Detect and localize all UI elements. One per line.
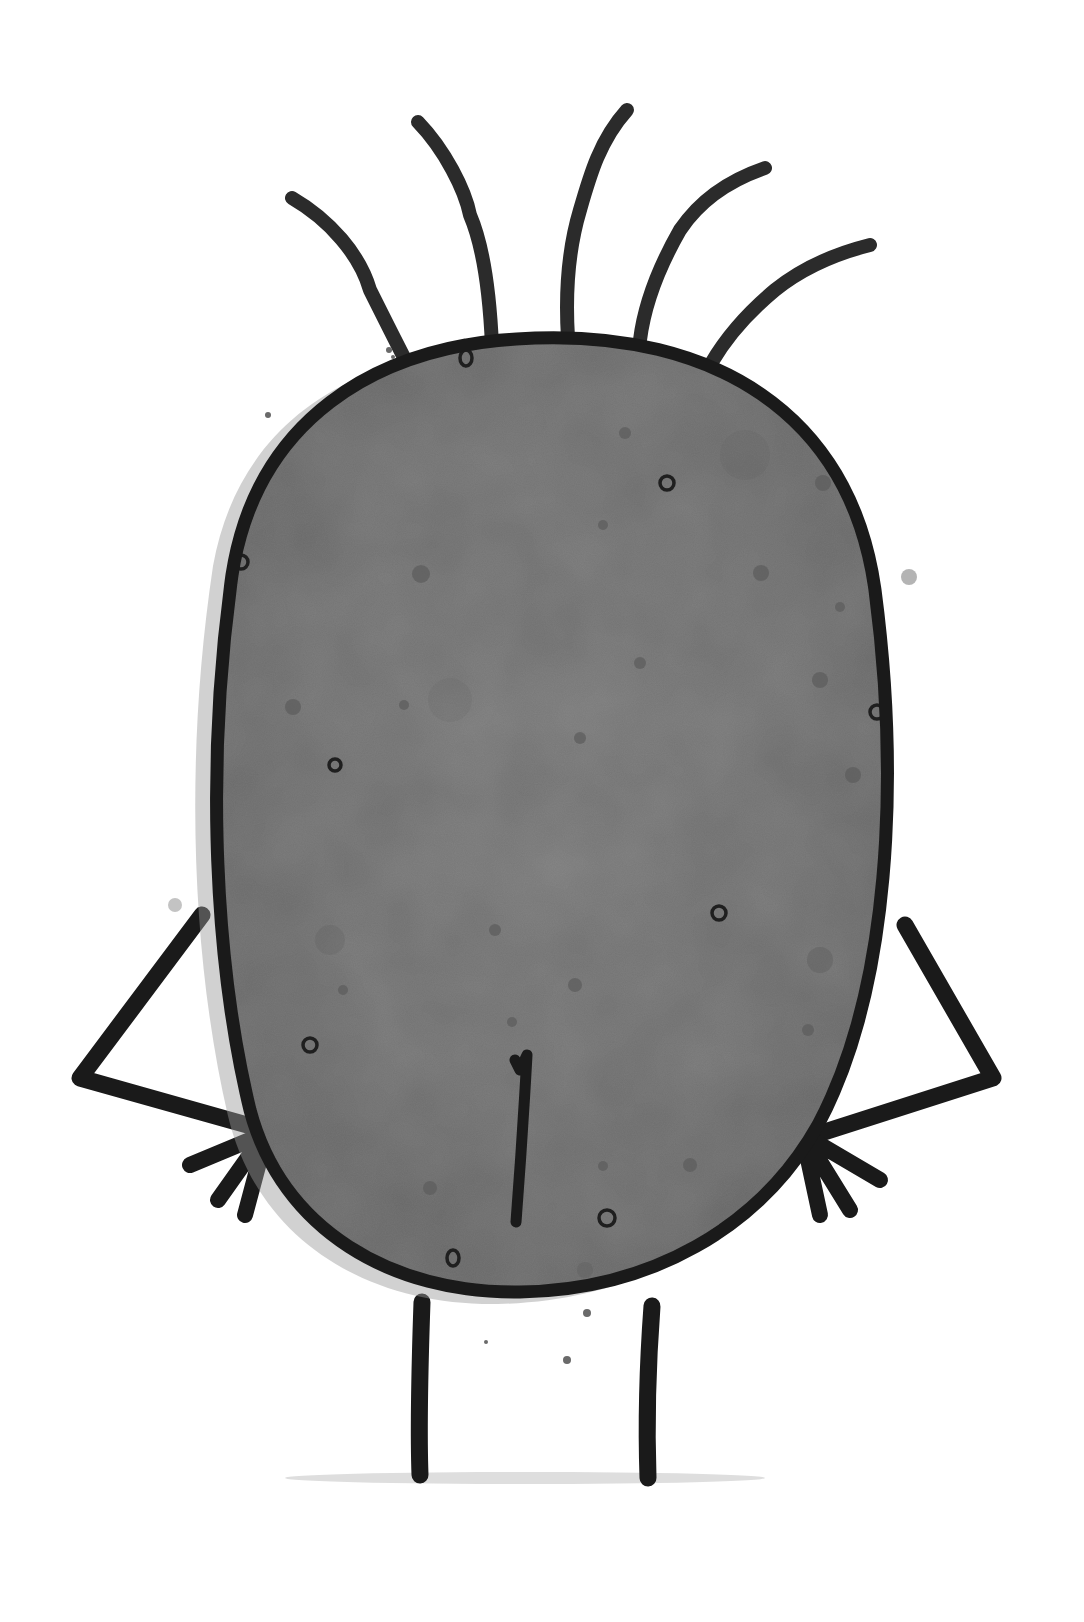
hair-strand-3 xyxy=(567,110,627,338)
hair-strand-2 xyxy=(418,122,492,346)
potato-character-illustration xyxy=(0,0,1084,1622)
left-leg xyxy=(419,1302,422,1475)
legs xyxy=(419,1302,652,1478)
hair-strand-5 xyxy=(712,245,870,362)
potato-body-grain xyxy=(217,338,888,1292)
right-leg xyxy=(647,1306,652,1478)
right-fingers xyxy=(805,1140,880,1215)
ground-shadow xyxy=(285,1472,765,1484)
hair-strand-1 xyxy=(292,198,412,373)
